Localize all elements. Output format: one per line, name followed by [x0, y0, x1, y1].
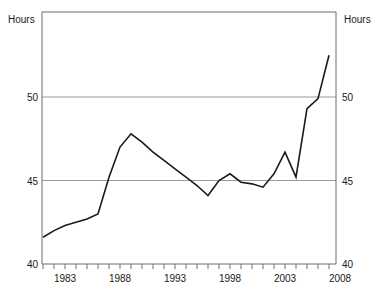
- data-series-line: [43, 55, 329, 237]
- x-axis-tick-marks: [43, 264, 329, 269]
- plot-area: [0, 0, 383, 300]
- chart-container: Hours Hours 50 45 40 50 45 40 1983 1988 …: [0, 0, 383, 300]
- axis-frame: [42, 12, 336, 264]
